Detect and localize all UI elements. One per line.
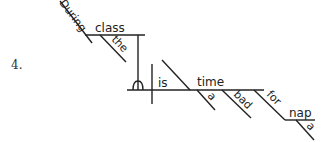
word-during: During [57,0,90,34]
word-class: class [95,21,125,35]
word-for: for [264,88,284,108]
word-bad: bad [231,88,255,112]
word-is: is [158,76,168,90]
word-time: time [197,75,224,89]
word-nap: nap [289,106,312,120]
word-the: the [109,33,131,55]
sentence-diagram: During class the is time a bad for nap a [0,0,328,142]
